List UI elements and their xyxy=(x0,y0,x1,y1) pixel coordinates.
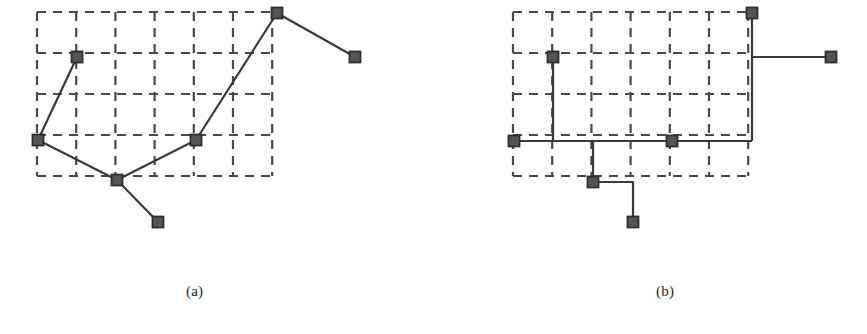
terminal-node xyxy=(548,52,559,63)
terminal-node xyxy=(112,175,123,186)
panel-b-grid xyxy=(513,12,748,176)
tree-edge xyxy=(196,13,277,140)
terminal-node xyxy=(191,135,202,146)
panel-b-caption: (b) xyxy=(656,283,674,300)
terminal-node xyxy=(72,52,83,63)
terminal-node xyxy=(588,177,599,188)
tree-edge xyxy=(38,140,117,180)
figure-root: (a) (b) xyxy=(0,0,867,334)
steiner-tree-figure xyxy=(0,0,867,334)
tree-edge xyxy=(277,13,355,57)
terminal-node xyxy=(33,135,44,146)
terminal-node xyxy=(272,8,283,19)
panel-b-edges xyxy=(514,13,831,222)
path-left-to-topleft xyxy=(514,57,553,141)
terminal-node xyxy=(747,8,758,19)
terminal-node xyxy=(509,136,520,147)
terminal-node xyxy=(667,136,678,147)
panel-a-nodes xyxy=(33,8,361,228)
terminal-node xyxy=(153,217,164,228)
panel-a-grid xyxy=(37,12,272,176)
panel-a-caption: (a) xyxy=(186,283,203,300)
terminal-node xyxy=(628,217,639,228)
tree-edge xyxy=(117,140,196,180)
terminal-node xyxy=(350,52,361,63)
panel-b-nodes xyxy=(509,8,837,228)
terminal-node xyxy=(826,52,837,63)
tree-edge xyxy=(38,57,77,140)
panel-a-edges xyxy=(38,13,355,222)
